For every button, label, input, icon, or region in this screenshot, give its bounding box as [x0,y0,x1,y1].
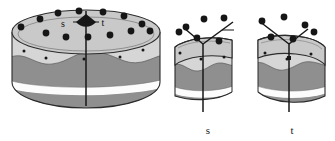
half-cake-t-label: t [290,124,293,136]
sprinkle-dot [201,16,208,23]
whole-cake-label-t: t [102,17,105,28]
sprinkle-dot-small [223,56,226,59]
whole-cake-label-s: s [61,18,65,29]
sprinkle-dot-small [23,50,26,53]
sprinkle-dot [55,10,62,17]
sprinkle-dot [216,38,223,45]
sprinkle-dot [139,21,146,28]
sprinkle-dot [37,16,44,23]
half-cake-s-group: s [172,15,236,136]
sprinkle-dot [281,14,288,21]
figure-canvas: s t s [0,0,335,141]
sprinkle-dot-small [179,52,182,55]
sprinkle-dot [121,13,128,20]
sprinkle-dot-small [83,58,86,61]
sprinkle-dot-small [142,49,145,52]
sprinkle-dot [76,8,83,15]
sprinkle-dot [43,30,50,37]
sprinkle-dot [107,32,114,39]
sprinkle-dot [268,34,275,41]
sprinkle-dot [100,9,107,16]
cake-cutting-diagram: s t s [0,0,335,141]
sprinkle-dot [176,29,183,36]
sprinkle-dot-small [200,58,203,61]
half-cake-s-label: s [206,124,210,136]
sprinkle-dot [18,24,25,31]
sprinkle-dot-small [310,53,313,56]
sprinkle-dot-small [45,57,48,60]
sprinkle-dot [128,28,135,35]
sprinkle-dot-small [264,52,267,55]
sprinkle-dot [63,34,70,41]
sprinkle-dot-small [119,56,122,59]
whole-cake-group: s t [8,8,168,118]
half-cake-t-group: t [254,14,330,136]
sprinkle-dot [302,22,309,29]
half-t-marker-square [287,56,291,60]
sprinkle-dot [221,15,228,22]
sprinkle-dot [311,29,318,36]
sprinkle-dot [147,28,154,35]
